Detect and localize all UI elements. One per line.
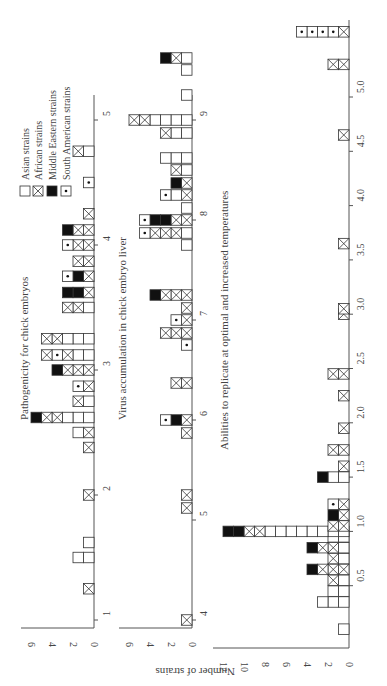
count-tick-label: 6 (281, 662, 292, 667)
panel-2: 0246456789 (119, 53, 209, 647)
cell-a (84, 396, 95, 407)
bar-stack (318, 472, 350, 483)
legend: Asian strains African strains Middle Eas… (20, 87, 72, 196)
value-tick-label: 5 (198, 511, 209, 516)
bar-stack (328, 510, 349, 521)
cell-a (84, 146, 95, 157)
cell-a (182, 240, 193, 251)
bar-stack (84, 442, 95, 453)
bar-stack (42, 350, 95, 361)
cell-a (286, 526, 297, 537)
cell-a (84, 537, 95, 548)
bar-stack (182, 340, 193, 351)
cell-a (339, 586, 350, 597)
count-tick-label: 8 (260, 662, 271, 667)
bar-stack (161, 153, 193, 164)
count-tick-label: 10 (239, 662, 250, 672)
cell-a (182, 203, 193, 214)
cell-m (161, 215, 172, 226)
bar-stack (171, 165, 192, 176)
cell-a (328, 472, 339, 483)
cell-m (307, 564, 318, 575)
bar-stack (328, 59, 349, 70)
bar-stack (31, 412, 94, 423)
value-tick-label: 9 (198, 111, 209, 116)
bar-stack (328, 521, 349, 532)
legend-swatch-asian (20, 186, 30, 196)
cell-a (73, 334, 84, 345)
bar-stack (339, 304, 350, 315)
cell-a (73, 427, 84, 438)
cell-a (182, 128, 193, 139)
bar-stack (182, 65, 193, 76)
cell-a (182, 65, 193, 76)
cell-a (73, 350, 84, 361)
cell-a (318, 597, 329, 608)
count-tick-label: 2 (68, 642, 79, 647)
cell-a (265, 526, 276, 537)
value-tick-label: 3 (101, 361, 112, 366)
cell-a (171, 190, 182, 201)
legend-label-south-american: South American strains (61, 87, 72, 180)
cell-a (171, 128, 182, 139)
bar-stack (182, 90, 193, 101)
value-tick-label: 0.5 (355, 569, 366, 582)
cell-a (339, 472, 350, 483)
bar-stack (73, 256, 94, 267)
cell-m (223, 526, 234, 537)
cell-m (73, 287, 84, 298)
value-tick-label: 2.5 (355, 352, 366, 365)
bar-stack (63, 287, 95, 298)
bar-stack (328, 369, 349, 380)
cell-m (31, 412, 42, 423)
bar-stack (84, 537, 95, 548)
bar-stack (182, 303, 193, 314)
cell-a (307, 526, 318, 537)
legend-label-asian: Asian strains (20, 128, 31, 180)
cell-a (339, 542, 350, 553)
bar-stack (161, 53, 193, 64)
bar-stack (297, 27, 350, 38)
bar-stack (339, 390, 350, 401)
cell-a (84, 412, 95, 423)
value-tick-label: 4 (198, 611, 209, 616)
panel-title-pathogenicity: Pathogenicity for chick embryos (18, 277, 30, 420)
cell-a (182, 153, 193, 164)
cell-a (84, 552, 95, 563)
cell-m (161, 53, 172, 64)
count-tick-label: 6 (124, 642, 135, 647)
bar-stack (73, 146, 94, 157)
value-tick-label: 1.5 (355, 461, 366, 474)
count-tick-label: 0 (344, 662, 355, 667)
value-tick-label: 1.0 (355, 515, 366, 528)
value-tick-label: 2 (101, 486, 112, 491)
bar-stack (328, 553, 349, 564)
legend-label-middle-eastern: Middle Eastern strains (47, 90, 58, 180)
value-tick-label: 7 (198, 311, 209, 316)
cell-a (73, 552, 84, 563)
bar-stack (339, 423, 350, 434)
count-tick-label: 6 (26, 642, 37, 647)
cell-a (339, 575, 350, 586)
bar-stack (182, 240, 193, 251)
cell-a (84, 350, 95, 361)
cell-m (171, 178, 182, 189)
bar-stack (182, 503, 193, 514)
cell-a (182, 53, 193, 64)
bar-stack (84, 209, 95, 220)
cell-a (318, 526, 329, 537)
value-tick-label: 5 (101, 111, 112, 116)
bar-stack (307, 542, 349, 553)
cell-a (150, 115, 161, 126)
cell-a (161, 153, 172, 164)
bar-stack (182, 615, 193, 626)
bar-stack (182, 203, 193, 214)
cell-a (84, 334, 95, 345)
bar-stack (84, 584, 95, 595)
cell-m (234, 526, 245, 537)
count-tick-label: 0 (187, 642, 198, 647)
cell-a (328, 597, 339, 608)
legend-swatch-african (33, 186, 43, 196)
cell-m (63, 225, 74, 236)
count-tick-label: 12 (218, 662, 229, 672)
